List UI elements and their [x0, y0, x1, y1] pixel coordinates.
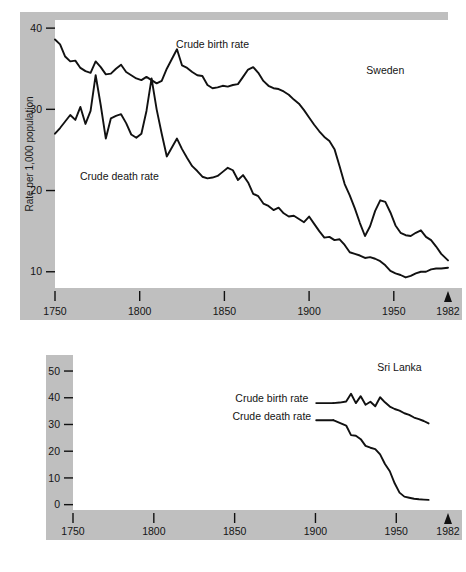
x-tick-label-sweden-1: 1800 — [128, 305, 152, 317]
x-tick-label-sri_lanka-1: 1800 — [142, 525, 166, 537]
x-tick-label-sri_lanka-3: 1900 — [304, 525, 328, 537]
x-tick-label-sri_lanka-5: 1982 — [436, 525, 460, 537]
y-tick-label-sweden-3: 40 — [30, 22, 42, 34]
y-tick-label-sri_lanka-4: 40 — [48, 391, 60, 403]
figure-root: 10203040175018001850190019501982Rate per… — [0, 0, 466, 572]
x-tick-label-sri_lanka-0: 1750 — [61, 525, 85, 537]
x-tick-label-sweden-5: 1982 — [436, 305, 460, 317]
x-tick-label-sweden-4: 1950 — [382, 305, 406, 317]
y-tick-label-sri_lanka-0: 0 — [54, 498, 60, 510]
series-annotation-sweden-0: Crude birth rate — [176, 38, 249, 50]
series-line-sri_lanka-0 — [333, 394, 428, 424]
y-tick-label-sweden-0: 10 — [30, 265, 42, 277]
x-tick-label-sweden-2: 1850 — [213, 305, 237, 317]
panel-sweden: 10203040175018001850190019501982Rate per… — [20, 12, 462, 320]
series-annotation-sri_lanka-0: Crude birth rate — [235, 392, 308, 404]
series-annotation-sweden-1: Crude death rate — [80, 170, 159, 182]
y-tick-label-sri_lanka-1: 10 — [48, 472, 60, 484]
y-tick-label-sri_lanka-3: 30 — [48, 418, 60, 430]
country-label-sweden-2: Sweden — [366, 64, 404, 76]
x-tick-label-sri_lanka-4: 1950 — [385, 525, 409, 537]
demographic-transition-figure: 10203040175018001850190019501982Rate per… — [0, 0, 466, 572]
x-tick-label-sweden-3: 1900 — [297, 305, 321, 317]
y-tick-label-sri_lanka-5: 50 — [48, 365, 60, 377]
y-tick-label-sri_lanka-2: 20 — [48, 445, 60, 457]
y-axis-title-sweden: Rate per 1,000 population — [24, 96, 35, 211]
series-line-sri_lanka-1 — [333, 420, 428, 500]
country-label-sri_lanka-2: Sri Lanka — [377, 361, 422, 373]
series-annotation-sri_lanka-1: Crude death rate — [232, 410, 311, 422]
x-tick-label-sweden-0: 1750 — [43, 305, 67, 317]
panel-sri_lanka: 01020304050175018001850190019501982Crude… — [46, 355, 462, 540]
x-tick-label-sri_lanka-2: 1850 — [223, 525, 247, 537]
axis-band-top-sweden — [20, 12, 448, 20]
